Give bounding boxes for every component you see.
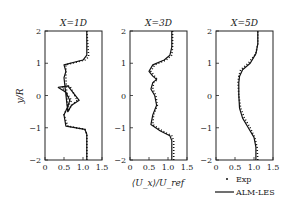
y-tick-label: 1 (121, 59, 126, 68)
plot-frame (216, 31, 273, 160)
y-tick-label: −2 (114, 156, 126, 165)
panel-title: X=5D (230, 18, 258, 28)
plot-frame (130, 31, 187, 160)
series-alm-les (58, 31, 87, 160)
y-tick-label: 2 (121, 27, 126, 36)
x-tick-label: 1.0 (162, 163, 175, 172)
figure: 210−1−200.51.01.5X=1D210−1−200.51.01.5X=… (0, 0, 296, 202)
y-tick-label: 1 (207, 59, 212, 68)
x-tick-label: 1.5 (267, 163, 280, 172)
series-alm-les (149, 31, 172, 160)
y-tick-label: 2 (207, 27, 212, 36)
y-tick-label: 0 (207, 92, 212, 101)
x-tick-label: 0.5 (229, 163, 242, 172)
x-tick-label: 0 (42, 163, 47, 172)
y-tick-label: −1 (200, 124, 212, 133)
plot-frame (45, 31, 102, 160)
y-tick-label: 0 (121, 92, 126, 101)
x-tick-label: 0.5 (58, 163, 71, 172)
y-tick-label: 0 (36, 92, 41, 101)
x-tick-label: 1.0 (77, 163, 90, 172)
y-tick-label: 2 (36, 27, 41, 36)
panel-title: X=3D (144, 18, 172, 28)
y-tick-label: −1 (29, 124, 41, 133)
x-tick-label: 0 (127, 163, 132, 172)
x-tick-label: 0 (213, 163, 218, 172)
legend-exp-marker (226, 178, 228, 180)
x-tick-label: 1.0 (248, 163, 261, 172)
x-tick-label: 1.5 (181, 163, 194, 172)
series-alm-les (239, 31, 258, 160)
y-tick-label: 1 (36, 59, 41, 68)
legend-exp-label: Exp (236, 175, 251, 184)
legend: ExpALM-LES (215, 175, 275, 197)
legend-alm-label: ALM-LES (235, 188, 275, 197)
y-tick-label: −2 (200, 156, 212, 165)
y-tick-label: −2 (29, 156, 41, 165)
x-tick-label: 1.5 (96, 163, 109, 172)
y-tick-label: −1 (114, 124, 126, 133)
panel-title: X=1D (59, 18, 87, 28)
panel-2: 210−1−200.51.01.5X=3D (114, 18, 193, 172)
x-tick-label: 0.5 (143, 163, 156, 172)
panel-3: 210−1−200.51.01.5X=5D (200, 18, 279, 172)
x-axis-label: ⟨U_x⟩/U_ref (132, 178, 186, 189)
panel-1: 210−1−200.51.01.5X=1D (29, 18, 108, 172)
y-axis-label: y/R (15, 88, 25, 104)
